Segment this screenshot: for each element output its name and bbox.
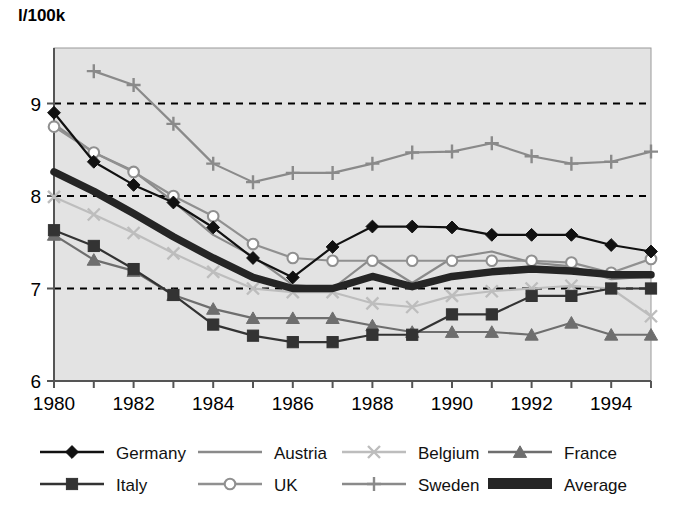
marker-italy-1993 xyxy=(566,290,577,301)
marker-italy-1990 xyxy=(446,309,457,320)
legend-marker-italy xyxy=(66,478,77,489)
marker-uk-1991 xyxy=(487,255,498,266)
marker-uk-1986 xyxy=(288,253,299,264)
legend-item-sweden[interactable]: Sweden xyxy=(342,476,479,495)
line-chart: 678919801982198419861988199019921994Germ… xyxy=(0,0,680,515)
legend-label-belgium: Belgium xyxy=(418,444,479,463)
chart-page: l/100k 678919801982198419861988199019921… xyxy=(0,0,680,515)
marker-uk-1985 xyxy=(248,239,259,250)
marker-italy-1995 xyxy=(645,283,656,294)
marker-italy-1983 xyxy=(168,289,179,300)
x-tick-label-1994: 1994 xyxy=(590,393,633,414)
marker-uk-1984 xyxy=(208,211,219,222)
x-tick-label-1986: 1986 xyxy=(272,393,314,414)
marker-italy-1981 xyxy=(88,240,99,251)
marker-uk-1992 xyxy=(526,255,537,266)
legend-label-germany: Germany xyxy=(116,444,186,463)
marker-italy-1988 xyxy=(367,329,378,340)
marker-italy-1982 xyxy=(128,263,139,274)
y-tick-label-6: 6 xyxy=(30,371,41,392)
marker-uk-1988 xyxy=(367,255,378,266)
chart-svg: 678919801982198419861988199019921994Germ… xyxy=(0,0,680,515)
legend-label-average: Average xyxy=(564,476,627,495)
marker-italy-1994 xyxy=(606,283,617,294)
legend-marker-sweden xyxy=(367,477,381,491)
marker-uk-1993 xyxy=(566,257,577,268)
legend-item-italy[interactable]: Italy xyxy=(40,476,148,495)
x-tick-label-1992: 1992 xyxy=(510,393,552,414)
legend-swatch-average xyxy=(488,478,552,489)
x-tick-label-1990: 1990 xyxy=(431,393,473,414)
marker-uk-1982 xyxy=(128,167,139,178)
marker-uk-1980 xyxy=(49,121,60,132)
legend-label-sweden: Sweden xyxy=(418,476,479,495)
legend-label-france: France xyxy=(564,444,617,463)
y-tick-label-9: 9 xyxy=(30,94,41,115)
legend-marker-germany xyxy=(66,446,79,459)
legend-item-belgium[interactable]: Belgium xyxy=(342,444,479,463)
x-tick-label-1988: 1988 xyxy=(351,393,393,414)
marker-italy-1992 xyxy=(526,290,537,301)
marker-italy-1980 xyxy=(48,225,59,236)
legend-item-average[interactable]: Average xyxy=(488,476,627,495)
marker-italy-1986 xyxy=(287,337,298,348)
x-tick-label-1982: 1982 xyxy=(112,393,154,414)
marker-italy-1991 xyxy=(486,309,497,320)
y-tick-label-7: 7 xyxy=(30,279,41,300)
legend-item-france[interactable]: France xyxy=(488,444,617,463)
legend-item-uk[interactable]: UK xyxy=(198,476,298,495)
x-tick-label-1980: 1980 xyxy=(33,393,75,414)
legend-label-austria: Austria xyxy=(274,444,327,463)
legend-label-italy: Italy xyxy=(116,476,148,495)
y-tick-label-8: 8 xyxy=(30,186,41,207)
legend-item-germany[interactable]: Germany xyxy=(40,444,186,463)
marker-italy-1984 xyxy=(208,319,219,330)
legend-marker-uk xyxy=(225,479,236,490)
marker-italy-1985 xyxy=(247,330,258,341)
marker-uk-1989 xyxy=(407,255,418,266)
x-tick-label-1984: 1984 xyxy=(192,393,235,414)
legend-label-uk: UK xyxy=(274,476,298,495)
marker-italy-1987 xyxy=(327,337,338,348)
plot-area-background xyxy=(54,48,651,381)
marker-uk-1990 xyxy=(447,255,458,266)
marker-uk-1987 xyxy=(327,255,338,266)
marker-italy-1989 xyxy=(407,329,418,340)
legend-item-austria[interactable]: Austria xyxy=(198,444,327,463)
